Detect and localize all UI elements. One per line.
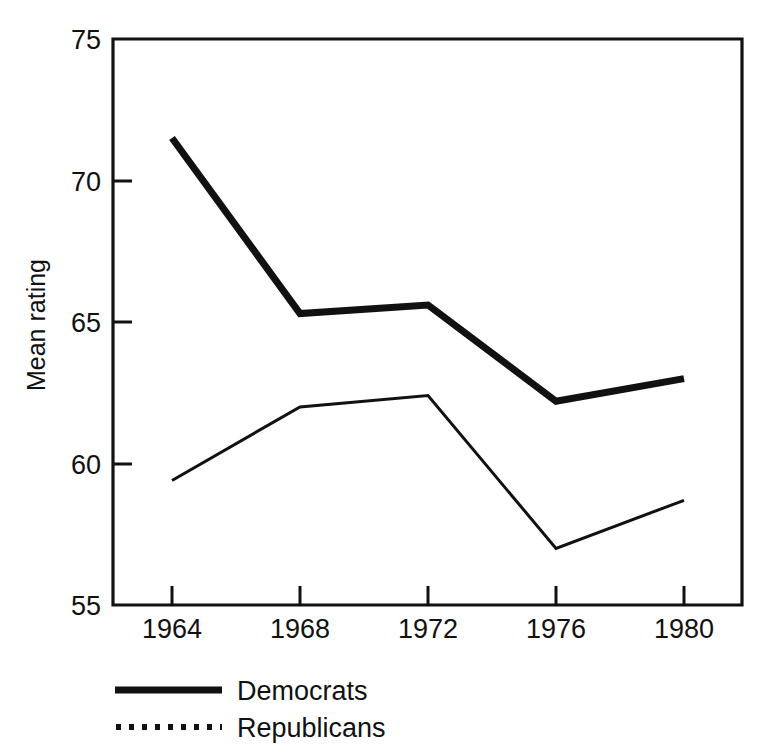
plot-frame [113, 39, 742, 605]
y-axis-label-55: 55 [71, 591, 101, 621]
x-axis-label-1968: 1968 [270, 614, 330, 644]
x-axis-label-1972: 1972 [398, 614, 458, 644]
y-axis-label-60: 60 [71, 450, 101, 480]
legend-label-democrats: Democrats [237, 676, 368, 706]
y-axis-title: Mean rating [22, 259, 50, 391]
chart-figure: 75 70 65 60 55 1964 1968 1972 1976 1980 … [0, 0, 768, 754]
series-line-republicans [172, 396, 684, 549]
x-axis-label-1964: 1964 [142, 614, 202, 644]
line-chart-canvas: 75 70 65 60 55 1964 1968 1972 1976 1980 … [0, 0, 768, 754]
chart-legend: Democrats Republicans [115, 676, 386, 743]
x-axis-label-1976: 1976 [526, 614, 586, 644]
series-line-democrats [172, 138, 684, 401]
legend-label-republicans: Republicans [237, 713, 386, 743]
y-axis-label-75: 75 [71, 25, 101, 55]
y-axis-label-70: 70 [71, 167, 101, 197]
y-axis-label-65: 65 [71, 308, 101, 338]
x-axis-label-1980: 1980 [654, 614, 714, 644]
